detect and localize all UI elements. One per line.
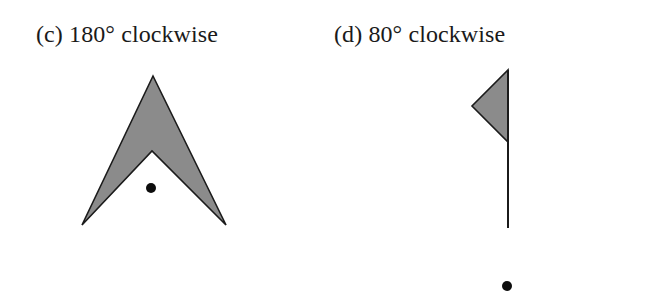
panel-d-80-degrees: (d) 80° clockwise xyxy=(324,0,647,299)
figure-container: (c) 180° clockwise (d) 80° clockwise xyxy=(0,0,647,299)
panel-c-180-degrees: (c) 180° clockwise xyxy=(0,0,324,299)
panel-c-drawing xyxy=(0,0,324,299)
flag-banner-shape xyxy=(472,70,508,142)
center-of-rotation-dot xyxy=(502,281,512,291)
chevron-arrowhead-shape xyxy=(82,76,226,225)
panel-d-drawing xyxy=(324,0,647,299)
center-of-rotation-dot xyxy=(146,183,156,193)
